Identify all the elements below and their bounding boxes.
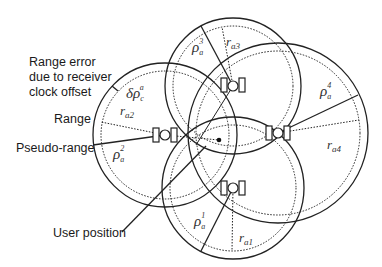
range-line-1: [232, 188, 233, 251]
gnss-pseudorange-diagram: Range error due to receiver clock offset…: [0, 0, 382, 267]
user-position-dot: [217, 138, 222, 143]
r2-sub: a2: [125, 110, 134, 120]
r3-symbol: ra3: [226, 34, 240, 51]
range-label: Range: [54, 112, 91, 127]
range-error-line1: Range error: [29, 55, 159, 70]
r4-symbol: ra4: [327, 137, 341, 154]
pseudo-range-label: Pseudo-range: [16, 141, 95, 156]
rho3-sub: a: [199, 48, 203, 57]
rho3-symbol: ρa3: [192, 38, 207, 57]
rho1-symbol: ρa1: [194, 212, 209, 231]
rho2-symbol: ρa2: [113, 145, 128, 164]
clock-error-sup: a: [140, 83, 144, 92]
clock-error-symbol: δρca: [126, 84, 148, 103]
satellite-icon-4: [266, 126, 290, 140]
clock-error-main: δρ: [126, 85, 140, 101]
rho4-sub: a: [327, 92, 331, 101]
rho4-sup: 4: [327, 81, 331, 90]
satellite-icon-1: [221, 181, 245, 195]
rho2-sup: 2: [120, 144, 124, 153]
rho2-sub: a: [120, 155, 124, 164]
rho3-sup: 3: [199, 37, 203, 46]
satellite-icon-2: [153, 128, 177, 142]
r4-sub: a4: [332, 144, 341, 154]
r3-sub: a3: [231, 41, 240, 51]
user-position-label: User position: [53, 226, 126, 241]
clock-error-sub: c: [140, 94, 144, 103]
rho1-sub: a: [201, 222, 205, 231]
r2-symbol: ra2: [120, 103, 134, 120]
rho4-symbol: ρa4: [320, 82, 335, 101]
r1-symbol: ra1: [239, 230, 253, 247]
r1-sub: a1: [244, 237, 253, 247]
rho1-sup: 1: [201, 211, 205, 220]
satellite-icon-3: [221, 78, 245, 92]
